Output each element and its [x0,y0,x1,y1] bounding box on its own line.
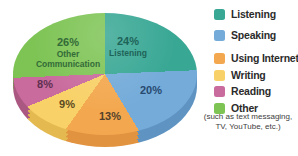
legend-item-speaking: Speaking [214,29,298,41]
legend-item-label: Speaking [231,29,276,41]
legend-item-label: Writing [231,69,266,81]
legend-note-line2: TV, YouTube, etc.) [199,122,297,132]
legend-item-label: Listening [231,8,276,20]
legend-item-label: Reading [231,85,271,97]
legend-swatch-using-internet [214,53,225,64]
legend-swatch-reading [214,86,225,97]
pie-chart-figure: 26% Other Communication 24% Listening 20… [0,0,298,156]
legend-swatch-writing [214,70,225,81]
legend-item-label: Using Internet [231,52,298,64]
legend: Listening Speaking Using Internet Writin… [214,8,298,114]
legend-item-writing: Writing [214,69,298,81]
legend-swatch-listening [214,9,225,20]
legend-note: (such as text messaging, TV, YouTube, et… [199,112,297,132]
pie-surface [13,13,197,135]
legend-item-listening: Listening [214,8,298,20]
legend-swatch-speaking [214,30,225,41]
legend-item-reading: Reading [214,85,298,97]
legend-item-using-internet: Using Internet [214,52,298,64]
legend-note-line1: (such as text messaging, [199,112,297,122]
